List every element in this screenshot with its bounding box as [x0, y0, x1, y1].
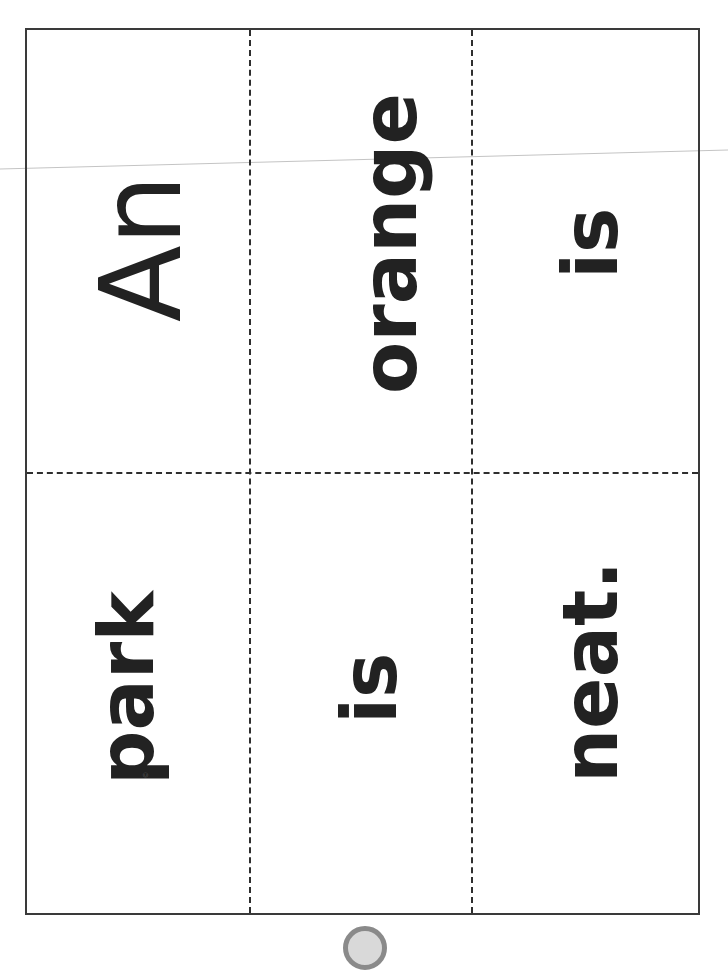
card-r1-c2: orange: [249, 30, 471, 472]
card-word: is: [553, 208, 629, 279]
card-r1-c1: An: [27, 30, 249, 472]
card-word: neat.: [553, 561, 629, 783]
card-r2-c2: is: [249, 472, 471, 913]
card-word: park: [89, 591, 165, 785]
card-word: is: [332, 653, 408, 724]
card-r2-c3: neat.: [471, 472, 698, 913]
card-r2-c1: park: [27, 472, 249, 913]
card-word: An: [85, 174, 197, 322]
binder-hole-icon: [343, 926, 387, 970]
card-r1-c3: is: [471, 30, 698, 472]
card-word: orange: [352, 93, 428, 394]
word-card-sheet: An orange is park is neat.: [25, 28, 700, 915]
copyright-mark: ©: [142, 772, 150, 779]
